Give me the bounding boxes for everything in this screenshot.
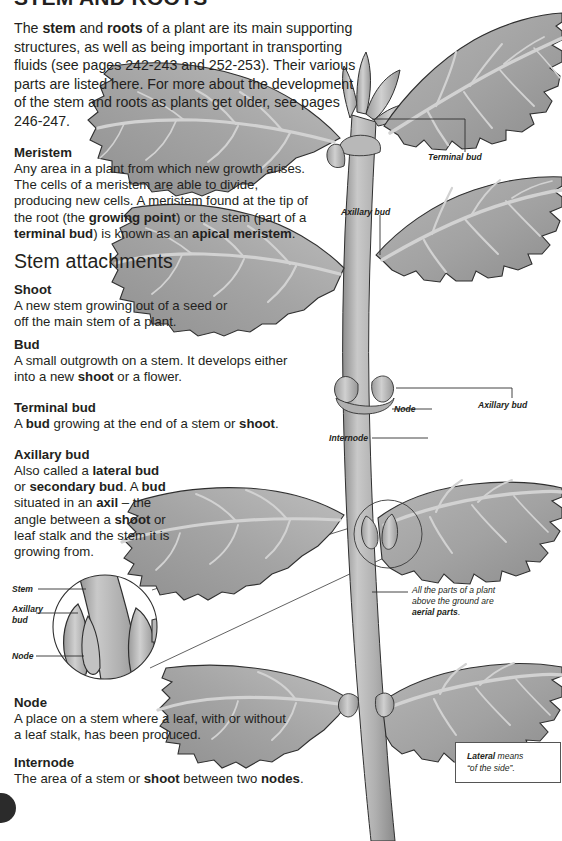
section-body-shoot: A new stem growing out of a seed or off … [14, 298, 244, 330]
lateral-definition-box: Lateral means “of the side”. [455, 742, 561, 783]
intro-paragraph: The stem and roots of a plant are its ma… [14, 19, 359, 131]
diagram-label-axillary-bud-upper: Axillary bud [341, 207, 390, 218]
section-heading-terminal-bud: Terminal bud [14, 400, 282, 415]
section-bud: Bud A small outgrowth on a stem. It deve… [14, 337, 289, 385]
section-body-bud: A small outgrowth on a stem. It develops… [14, 353, 289, 385]
term-roots: roots [107, 20, 142, 36]
section-shoot: Shoot A new stem growing out of a seed o… [14, 282, 244, 330]
section-meristem: Meristem Any area in a plant from which … [14, 145, 310, 242]
diagram-label-internode: Internode [329, 433, 368, 444]
inset-label-node: Node [12, 651, 33, 662]
lateral-means: means [495, 751, 523, 761]
inset-label-stem: Stem [12, 584, 33, 595]
big-heading-stem-attachments: Stem attachments [14, 250, 173, 272]
diagram-label-axillary-bud-lower: Axillary bud [478, 400, 527, 411]
section-internode: Internode The area of a stem or shoot be… [14, 755, 314, 787]
diagram-label-terminal-bud: Terminal bud [428, 152, 482, 163]
section-heading-shoot: Shoot [14, 282, 244, 297]
reference-page: STEM AND ROOTS The stem and roots of a p… [0, 0, 562, 841]
aerial-note-tail: . [458, 607, 460, 617]
section-heading-axillary-bud: Axillary bud [14, 447, 174, 462]
section-body-meristem: Any area in a plant from which new growt… [14, 161, 310, 242]
section-body-internode: The area of a stem or shoot between two … [14, 771, 314, 787]
aerial-note-term: aerial parts [412, 607, 458, 617]
section-body-node: A place on a stem where a leaf, with or … [14, 711, 294, 743]
lateral-meaning: “of the side”. [467, 763, 515, 773]
section-heading-meristem: Meristem [14, 145, 310, 160]
diagram-label-node: Node [394, 404, 415, 415]
section-heading-node: Node [14, 695, 294, 710]
page-number-badge [0, 793, 16, 823]
page-title: STEM AND ROOTS [14, 0, 344, 6]
lateral-term: Lateral [467, 751, 495, 761]
section-axillary-bud: Axillary bud Also called a lateral bud o… [14, 447, 174, 560]
section-heading-bud: Bud [14, 337, 289, 352]
aerial-parts-note: All the parts of a plant above the groun… [412, 585, 537, 618]
term-stem: stem [42, 20, 75, 36]
section-terminal-bud: Terminal bud A bud growing at the end of… [14, 400, 282, 432]
inset-label-axillary-bud: Axillary bud [12, 604, 54, 625]
aerial-note-line1: All the parts of a plant [412, 585, 495, 595]
section-body-terminal-bud: A bud growing at the end of a stem or sh… [14, 416, 282, 432]
section-heading-internode: Internode [14, 755, 314, 770]
section-node: Node A place on a stem where a leaf, wit… [14, 695, 294, 743]
aerial-note-line2: above the ground are [412, 596, 494, 606]
section-body-axillary-bud: Also called a lateral bud or secondary b… [14, 463, 174, 560]
